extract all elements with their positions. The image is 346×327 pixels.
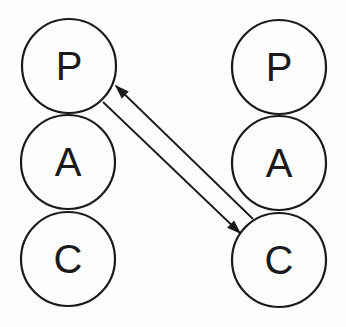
right-child-label: C — [265, 238, 294, 282]
right-person: P A C — [232, 20, 326, 307]
left-child-state: C — [21, 212, 115, 306]
left-adult-state: A — [21, 115, 115, 209]
right-parent-state: P — [232, 20, 326, 114]
right-child-state: C — [232, 213, 326, 307]
left-adult-label: A — [55, 140, 82, 184]
diagram-canvas: P A C P A C — [0, 0, 346, 327]
ego-state-diagram: P A C P A C — [0, 0, 346, 327]
right-adult-state: A — [232, 116, 326, 210]
arrow-parent-to-child — [103, 102, 240, 233]
left-parent-state: P — [22, 19, 116, 113]
left-child-label: C — [54, 237, 83, 281]
right-adult-label: A — [266, 141, 293, 185]
left-parent-label: P — [56, 44, 83, 88]
right-parent-label: P — [266, 45, 293, 89]
left-person: P A C — [21, 19, 116, 306]
